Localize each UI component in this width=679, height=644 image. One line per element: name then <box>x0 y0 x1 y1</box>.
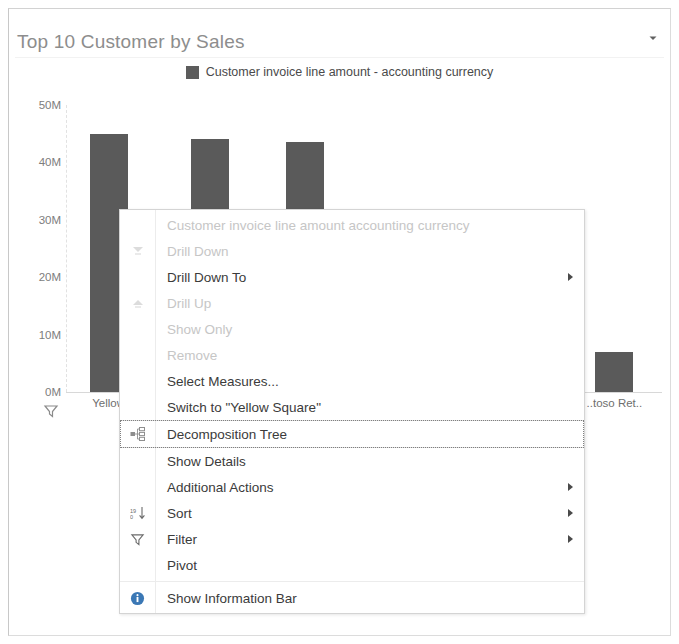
menu-item-customer-invoice-line-amount-accounting-currency: Customer invoice line amount accounting … <box>120 212 584 238</box>
menu-item-icon-slot <box>120 368 155 394</box>
drill-down-icon <box>120 238 155 264</box>
menu-item-label: Show Information Bar <box>155 591 297 606</box>
menu-item-label: Show Only <box>155 322 232 337</box>
y-axis-tick-label: 10M <box>39 329 61 341</box>
menu-item-icon-slot <box>120 342 155 368</box>
menu-item-select-measures[interactable]: Select Measures... <box>120 368 584 394</box>
menu-separator <box>120 581 584 582</box>
menu-item-filter[interactable]: Filter <box>120 526 584 552</box>
svg-text:0: 0 <box>130 514 133 520</box>
legend-item[interactable]: Customer invoice line amount - accountin… <box>186 65 494 79</box>
menu-item-show-only: Show Only <box>120 316 584 342</box>
submenu-arrow-icon <box>568 535 573 543</box>
menu-item-label: Customer invoice line amount accounting … <box>155 218 469 233</box>
bar[interactable] <box>595 352 633 392</box>
menu-item-label: Pivot <box>155 558 197 573</box>
menu-item-label: Drill Down <box>155 244 229 259</box>
submenu-arrow-icon <box>568 483 573 491</box>
y-axis-tick-label: 40M <box>39 156 61 168</box>
chart-legend: Customer invoice line amount - accountin… <box>9 65 670 79</box>
tile-header: Top 10 Customer by Sales <box>9 9 670 53</box>
menu-item-label: Select Measures... <box>155 374 279 389</box>
decomposition-tree-icon <box>120 421 155 447</box>
menu-item-icon-slot <box>120 448 155 474</box>
menu-item-list: Customer invoice line amount accounting … <box>120 212 584 611</box>
y-axis: 0M10M20M30M40M50M <box>9 91 65 391</box>
menu-item-sort[interactable]: 190Sort <box>120 500 584 526</box>
legend-swatch <box>186 66 199 79</box>
menu-item-additional-actions[interactable]: Additional Actions <box>120 474 584 500</box>
x-axis-tick-label: ..toso Ret.. <box>587 397 643 409</box>
menu-item-drill-down: Drill Down <box>120 238 584 264</box>
y-axis-tick-label: 0M <box>45 386 61 398</box>
menu-item-icon-slot <box>120 552 155 578</box>
menu-item-show-information-bar[interactable]: Show Information Bar <box>120 585 584 611</box>
menu-item-remove: Remove <box>120 342 584 368</box>
menu-item-show-details[interactable]: Show Details <box>120 448 584 474</box>
drill-up-icon <box>120 290 155 316</box>
menu-item-decomposition-tree[interactable]: Decomposition Tree <box>120 420 584 448</box>
y-axis-tick-label: 30M <box>39 214 61 226</box>
svg-text:19: 19 <box>130 507 136 513</box>
y-axis-tick-label: 20M <box>39 271 61 283</box>
menu-item-drill-down-to[interactable]: Drill Down To <box>120 264 584 290</box>
menu-item-label: Remove <box>155 348 217 363</box>
menu-item-label: Sort <box>155 506 192 521</box>
menu-item-icon-slot <box>120 212 155 238</box>
info-circle-icon <box>120 585 155 611</box>
legend-label: Customer invoice line amount - accountin… <box>206 65 494 79</box>
page-title: Top 10 Customer by Sales <box>17 31 245 53</box>
menu-item-label: Drill Down To <box>155 270 246 285</box>
menu-item-label: Decomposition Tree <box>155 427 287 442</box>
y-axis-tick-label: 50M <box>39 99 61 111</box>
menu-item-label: Switch to "Yellow Square" <box>155 400 321 415</box>
submenu-arrow-icon <box>568 509 573 517</box>
menu-item-label: Filter <box>155 532 197 547</box>
submenu-arrow-icon <box>568 273 573 281</box>
menu-item-icon-slot <box>120 394 155 420</box>
context-menu: Customer invoice line amount accounting … <box>119 209 585 614</box>
menu-item-icon-slot <box>120 474 155 500</box>
sort-number-icon: 190 <box>120 500 155 526</box>
filter-funnel-icon <box>120 526 155 552</box>
menu-item-label: Drill Up <box>155 296 211 311</box>
chart-tile: Top 10 Customer by Sales Customer invoic… <box>8 8 671 636</box>
menu-item-label: Additional Actions <box>155 480 274 495</box>
chevron-down-icon[interactable] <box>648 33 658 43</box>
menu-item-label: Show Details <box>155 454 246 469</box>
menu-item-switch-to-yellow-square[interactable]: Switch to "Yellow Square" <box>120 394 584 420</box>
menu-item-pivot[interactable]: Pivot <box>120 552 584 578</box>
menu-item-icon-slot <box>120 264 155 290</box>
menu-item-icon-slot <box>120 316 155 342</box>
header-divider <box>15 57 664 58</box>
menu-item-drill-up: Drill Up <box>120 290 584 316</box>
filter-funnel-icon[interactable] <box>43 403 59 419</box>
